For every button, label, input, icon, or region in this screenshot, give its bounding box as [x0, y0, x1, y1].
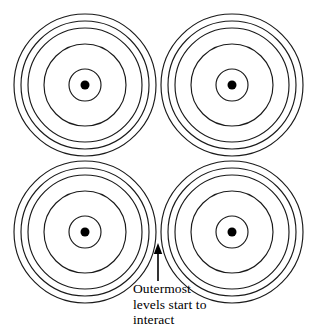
top-left-atom	[14, 14, 156, 156]
nucleus-dot	[228, 81, 237, 90]
annotation-arrow	[154, 243, 162, 281]
top-right-atom	[161, 14, 303, 156]
nucleus-dot	[228, 228, 237, 237]
nucleus-dot	[81, 228, 90, 237]
caption-text: Outermost levels start to interact	[133, 281, 253, 328]
nucleus-dot	[81, 81, 90, 90]
figure-canvas: Outermost levels start to interact	[0, 0, 318, 336]
